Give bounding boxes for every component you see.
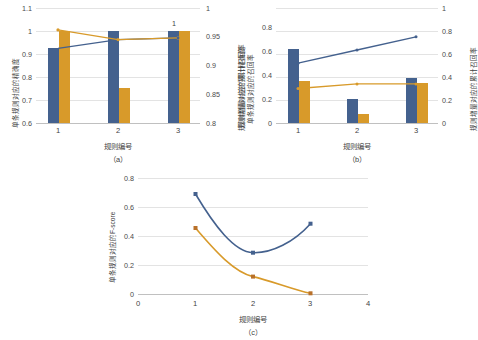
panel-b-ytick-right-0.8: 0.8: [442, 28, 466, 36]
panel-a-xtick-3: 3: [168, 126, 188, 135]
panel-b-xtick-3: 3: [406, 126, 426, 135]
panel-b-plot-area: [276, 8, 438, 124]
panel-a-ytick-right-0.8: 0.8: [206, 120, 230, 128]
panel-a-xtick-1: 1: [48, 126, 68, 135]
panel-b-xtick-2: 2: [347, 126, 367, 135]
panel-b-caption: （b）: [327, 153, 387, 164]
panel-b-ytick-right-0.2: 0.2: [442, 97, 466, 105]
panel-b-ytick-left-0.6: 0.6: [250, 48, 272, 56]
panel-c-xtick-1: 1: [185, 299, 205, 308]
panel-b-lines: [276, 8, 438, 124]
panel-c-ytick-0.6: 0.6: [112, 204, 134, 212]
panel-a-ytick-left-0.8: 0.8: [10, 74, 32, 82]
panel-c-xtick-2: 2: [243, 299, 263, 308]
panel-c-xlabel: 规则编号: [213, 313, 293, 324]
panel-a-ytick-right-0.85: 0.85: [206, 91, 230, 99]
panel-c-xtick-0: 0: [128, 299, 148, 308]
panel-a-plot-area: 1: [36, 8, 200, 124]
panel-c-ytick-0.2: 0.2: [112, 262, 134, 270]
panel-b-ytick-right-0.6: 0.6: [442, 51, 466, 59]
panel-b-ytick-left-0.2: 0.2: [250, 96, 272, 104]
panel-b-ytick-left-0.4: 0.4: [250, 72, 272, 80]
panel-a-xtick-2: 2: [108, 126, 128, 135]
panel-b-xlabel: 规则编号: [317, 140, 397, 151]
panel-c-ylabel: 单条规则对应的F-score: [107, 212, 117, 283]
panel-c: 单条规则对应的F-score 0.8 0.6 0.4 0.2 0 0 1 2 3…: [78, 168, 388, 340]
panel-b-ylabel-left: 单条规则对应的召回率: [245, 54, 255, 124]
panel-c-ytick-0: 0: [112, 291, 134, 299]
panel-b-ytick-left-0: 0: [250, 120, 272, 128]
panel-a-data-label-3: 1: [163, 19, 185, 28]
panel-c-caption: （c）: [223, 326, 283, 337]
panel-c-plot-area: [138, 178, 368, 298]
panel-a: 单条规则对应的精确度 规则增量对应的累计精确度 1.1 1 0.9 0.8 0.…: [0, 0, 236, 170]
panel-a-ytick-right-1: 1: [206, 5, 230, 13]
panel-a-ytick-left-1.1: 1.1: [10, 5, 32, 13]
panel-c-lines: [138, 178, 368, 298]
panel-a-ytick-left-0.7: 0.7: [10, 97, 32, 105]
panel-c-ytick-0.4: 0.4: [112, 233, 134, 241]
panel-c-ytick-0.8: 0.8: [112, 175, 134, 183]
panel-c-xtick-4: 4: [358, 299, 378, 308]
panel-b-ytick-right-0.4: 0.4: [442, 74, 466, 82]
panel-a-ylabel-left: 单条规则对应的精确度: [10, 58, 20, 128]
panel-a-ytick-right-0.9: 0.9: [206, 62, 230, 70]
panel-b-ytick-right-0: 0: [442, 120, 466, 128]
panel-a-caption: （a）: [88, 153, 148, 164]
panel-a-ytick-left-0.9: 0.9: [10, 51, 32, 59]
panel-b: 规则增量对应的累计召回率 单条规则对应的召回率 规则增量对应的累计召回率 0.8…: [236, 0, 471, 170]
panel-b-ylabel-right: 规则增量对应的累计召回率: [468, 47, 478, 131]
panel-b-xtick-1: 1: [288, 126, 308, 135]
panel-a-ytick-right-0.95: 0.95: [206, 33, 230, 41]
panel-a-xlabel: 规则编号: [78, 140, 158, 151]
panel-a-ytick-left-1: 1: [10, 28, 32, 36]
panel-b-ytick-right-1: 1: [442, 5, 466, 13]
panel-a-ytick-left-0.6: 0.6: [10, 120, 32, 128]
panel-c-xtick-3: 3: [300, 299, 320, 308]
panel-b-ytick-left-0.8: 0.8: [250, 24, 272, 32]
